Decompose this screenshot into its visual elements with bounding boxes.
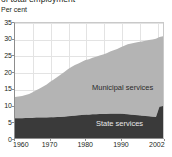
x-axis-tick-mark xyxy=(50,139,51,141)
y-axis-tick-mark xyxy=(12,122,14,123)
x-axis-tick-label: 1980 xyxy=(77,141,93,149)
stacked-area-chart: of total employment Per cent 35302520151… xyxy=(0,0,172,157)
x-axis-tick-mark xyxy=(121,139,122,141)
y-axis-tick-label: 0 xyxy=(0,136,12,143)
y-axis-tick-label: 15 xyxy=(0,85,12,92)
x-axis-tick-label: 1970 xyxy=(42,141,58,149)
x-axis-tick-label: 2002 xyxy=(149,141,165,149)
chart-title: of total employment xyxy=(1,0,171,4)
y-axis-tick-label: 20 xyxy=(0,69,12,76)
x-axis-tick-mark xyxy=(164,139,165,141)
y-axis-tick-mark xyxy=(12,39,14,40)
y-axis-tick-mark xyxy=(12,55,14,56)
x-axis-tick-label: 1990 xyxy=(113,141,129,149)
x-axis-tick-label: 1960 xyxy=(13,141,29,149)
y-axis-unit-label: Per cent xyxy=(1,6,27,14)
y-axis-tick-label: 25 xyxy=(0,52,12,59)
x-axis-tick-mark xyxy=(14,139,15,141)
y-axis-tick-label: 10 xyxy=(0,102,12,109)
y-axis-tick-mark xyxy=(12,72,14,73)
y-axis-tick-label: 30 xyxy=(0,35,12,42)
y-axis-tick-mark xyxy=(12,106,14,107)
series-label-state-services: State services xyxy=(96,119,143,128)
y-axis-tick-mark xyxy=(12,89,14,90)
y-axis-tick-label: 35 xyxy=(0,19,12,26)
y-axis-tick-mark xyxy=(12,22,14,23)
y-axis-tick-label: 5 xyxy=(0,119,12,126)
municipal-services-area xyxy=(15,36,163,118)
x-axis-tick-mark xyxy=(85,139,86,141)
series-label-municipal-services: Municipal services xyxy=(92,83,153,92)
